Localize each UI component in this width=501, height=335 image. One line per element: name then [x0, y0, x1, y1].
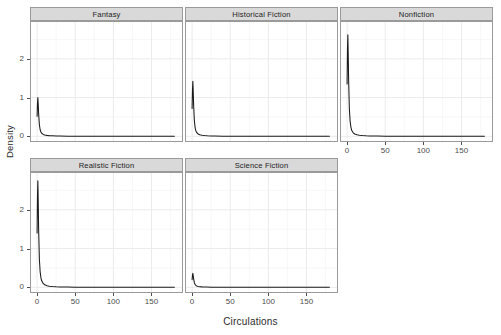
x-tick-mark — [230, 293, 231, 296]
density-line — [37, 181, 174, 288]
x-tick-mark — [461, 142, 462, 145]
density-curve-svg — [341, 22, 492, 141]
x-tick-label: 50 — [370, 146, 400, 155]
x-tick-label: 50 — [215, 297, 245, 306]
x-tick-mark — [423, 142, 424, 145]
x-tick-label: 0 — [332, 146, 362, 155]
facet-plot-area — [340, 21, 493, 142]
density-curve-svg — [186, 173, 337, 292]
x-tick-label: 100 — [408, 146, 438, 155]
x-tick-label: 150 — [446, 146, 476, 155]
y-tick-label: 2 — [0, 54, 24, 63]
facet-strip-label: Fantasy — [30, 7, 183, 21]
density-curve-svg — [31, 22, 182, 141]
facet-panel-historical-fiction: Historical Fiction — [185, 7, 338, 142]
x-tick-mark — [113, 293, 114, 296]
y-axis-title: Density — [4, 107, 15, 177]
facet-plot-area — [30, 21, 183, 142]
y-tick-mark — [27, 249, 30, 250]
density-curve-svg — [31, 173, 182, 292]
x-tick-label: 50 — [60, 297, 90, 306]
y-tick-label: 0 — [0, 282, 24, 291]
density-facet-chart: Density Circulations FantasyHistorical F… — [0, 0, 501, 335]
x-tick-label: 100 — [98, 297, 128, 306]
x-tick-label: 150 — [136, 297, 166, 306]
x-tick-label: 0 — [177, 297, 207, 306]
x-tick-label: 100 — [253, 297, 283, 306]
facet-plot-area — [30, 172, 183, 293]
y-tick-mark — [27, 210, 30, 211]
density-line — [347, 35, 484, 137]
facet-strip-label: Realistic Fiction — [30, 158, 183, 172]
x-tick-mark — [151, 293, 152, 296]
density-curve-svg — [186, 22, 337, 141]
x-tick-mark — [75, 293, 76, 296]
y-tick-mark — [27, 59, 30, 60]
density-line — [192, 81, 329, 136]
facet-panel-nonfiction: Nonfiction — [340, 7, 493, 142]
x-tick-mark — [37, 293, 38, 296]
y-tick-label: 0 — [0, 131, 24, 140]
y-tick-label: 1 — [0, 244, 24, 253]
facet-plot-area — [185, 21, 338, 142]
facet-panel-science-fiction: Science Fiction — [185, 158, 338, 293]
x-tick-mark — [306, 293, 307, 296]
facet-plot-area — [185, 172, 338, 293]
x-tick-mark — [385, 142, 386, 145]
x-tick-label: 0 — [22, 297, 52, 306]
density-line — [192, 273, 329, 287]
y-tick-mark — [27, 136, 30, 137]
facet-panel-fantasy: Fantasy — [30, 7, 183, 142]
y-tick-mark — [27, 98, 30, 99]
x-axis-title: Circulations — [0, 316, 501, 327]
facet-strip-label: Historical Fiction — [185, 7, 338, 21]
y-tick-label: 1 — [0, 93, 24, 102]
facet-panel-realistic-fiction: Realistic Fiction — [30, 158, 183, 293]
facet-strip-label: Nonfiction — [340, 7, 493, 21]
y-tick-label: 2 — [0, 205, 24, 214]
x-tick-mark — [268, 293, 269, 296]
facet-strip-label: Science Fiction — [185, 158, 338, 172]
x-tick-label: 150 — [291, 297, 321, 306]
y-tick-mark — [27, 287, 30, 288]
x-tick-mark — [192, 293, 193, 296]
x-tick-mark — [347, 142, 348, 145]
